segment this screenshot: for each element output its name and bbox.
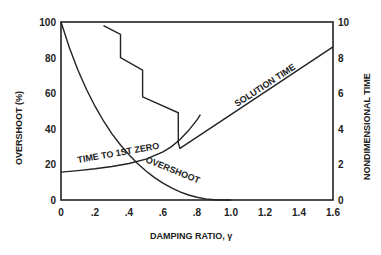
x-tick-label: 0 bbox=[58, 207, 64, 218]
y2-tick-label: 4 bbox=[338, 124, 344, 135]
y-tick-label: 60 bbox=[45, 88, 57, 99]
annotation-solution-time: SOLUTION TIME bbox=[233, 62, 298, 109]
y-tick-label: 40 bbox=[45, 124, 57, 135]
plot-frame bbox=[61, 22, 333, 200]
x-tick-label: 1.2 bbox=[258, 207, 272, 218]
chart: 0.2.4.6.81.01.21.41.6 020406080100 02468… bbox=[0, 0, 381, 255]
series-line-overshoot bbox=[61, 22, 231, 200]
x-tick-label: .8 bbox=[193, 207, 202, 218]
x-axis-label: DAMPING RATIO, γ bbox=[150, 231, 232, 241]
y2-tick-label: 0 bbox=[338, 195, 344, 206]
x-tick-label: 1.0 bbox=[224, 207, 238, 218]
y-tick-label: 100 bbox=[39, 17, 56, 28]
x-tick-label: 1.6 bbox=[326, 207, 340, 218]
y-tick-label: 80 bbox=[45, 53, 57, 64]
y-axis-label: OVERSHOOT (%) bbox=[14, 91, 24, 165]
x-tick-label: .6 bbox=[159, 207, 168, 218]
annotation-overshoot: OVERSHOOT bbox=[144, 155, 202, 186]
y2-axis-label: NONDIMENSIONAL TIME bbox=[362, 73, 372, 180]
x-tick-label: .2 bbox=[91, 207, 100, 218]
y2-tick-label: 10 bbox=[338, 17, 350, 28]
y2-tick-label: 2 bbox=[338, 159, 344, 170]
y-tick-label: 0 bbox=[50, 195, 56, 206]
x-tick-label: 1.4 bbox=[292, 207, 306, 218]
y-tick-label: 20 bbox=[45, 159, 57, 170]
y2-tick-label: 8 bbox=[338, 53, 344, 64]
series-line-solution-time bbox=[104, 26, 334, 149]
x-tick-label: .4 bbox=[125, 207, 134, 218]
y2-tick-label: 6 bbox=[338, 88, 344, 99]
